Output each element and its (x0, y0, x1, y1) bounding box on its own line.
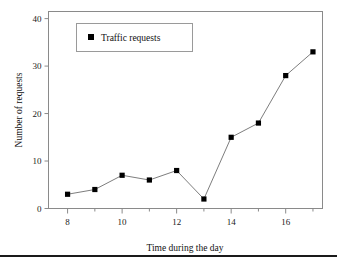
x-tick-label: 16 (281, 217, 291, 227)
data-point-marker (201, 196, 206, 201)
y-tick-label: 40 (33, 14, 43, 24)
line-chart: 010203040 810121416 Traffic requests Tim… (0, 0, 337, 261)
data-point-marker (283, 73, 288, 78)
legend-entry-label: Traffic requests (101, 33, 161, 43)
data-point-marker (120, 173, 125, 178)
x-tick-label: 10 (118, 217, 128, 227)
data-point-marker (147, 177, 152, 182)
x-axis-title: Time during the day (147, 243, 224, 253)
chart-legend[interactable]: Traffic requests (77, 24, 193, 52)
x-tick-label: 14 (227, 217, 237, 227)
y-axis-title: Number of requests (14, 72, 24, 147)
y-tick-label: 30 (33, 61, 43, 71)
data-point-marker (229, 135, 234, 140)
chart-figure: 010203040 810121416 Traffic requests Tim… (0, 0, 337, 261)
x-tick-label: 12 (172, 217, 181, 227)
y-tick-label: 20 (33, 109, 43, 119)
y-tick-label: 10 (33, 156, 43, 166)
legend-swatch-square-icon (88, 34, 94, 40)
data-point-marker (65, 192, 70, 197)
data-point-marker (174, 168, 179, 173)
data-point-marker (256, 120, 261, 125)
data-point-marker (310, 49, 315, 54)
x-tick-label: 8 (65, 217, 70, 227)
data-point-marker (92, 187, 97, 192)
y-tick-label: 0 (37, 204, 42, 214)
